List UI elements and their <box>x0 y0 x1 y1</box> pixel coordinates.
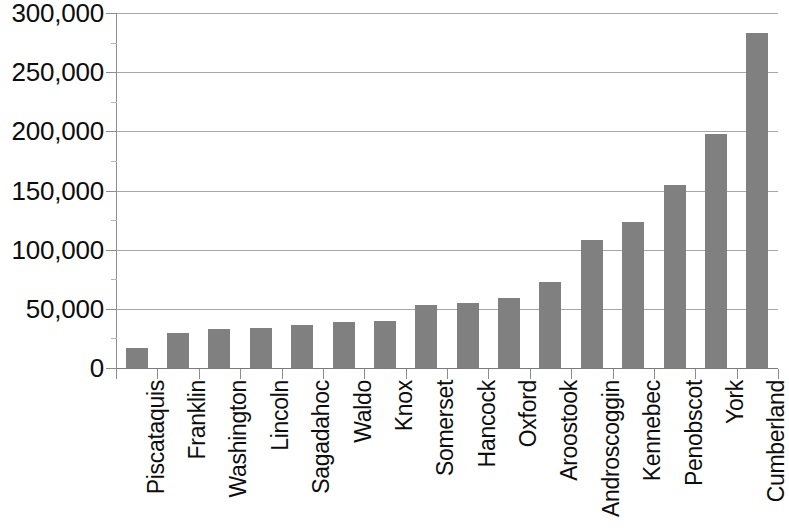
x-axis-tick-label: Androscoggin <box>600 380 623 517</box>
y-axis-tick-label: 100,000 <box>0 237 104 263</box>
x-axis-tick-label: Penobscot <box>683 380 706 486</box>
y-axis-labels: 050,000100,000150,000200,000250,000300,0… <box>0 0 104 380</box>
y-axis-minor-tick <box>111 43 117 44</box>
x-axis-tick-label: Hancock <box>476 380 499 467</box>
x-axis-labels: PiscataquisFranklinWashingtonLincolnSaga… <box>116 368 778 530</box>
y-axis-tick <box>106 131 117 132</box>
x-axis-tick-label: Knox <box>393 380 416 431</box>
x-axis-tick-label: Waldo <box>352 380 375 443</box>
y-axis-tick-label: 200,000 <box>0 118 104 144</box>
y-axis-minor-tick <box>111 279 117 280</box>
y-axis-tick-label: 300,000 <box>0 0 104 26</box>
bar <box>415 305 437 368</box>
bar <box>167 333 189 369</box>
x-axis-tick-label: Piscataquis <box>145 380 168 494</box>
y-axis-minor-tick <box>111 102 117 103</box>
x-axis-tick-label: Cumberland <box>765 380 788 502</box>
x-axis-tick-label: Washington <box>227 380 250 498</box>
bar <box>457 303 479 368</box>
x-axis-tick-label: Franklin <box>186 380 209 459</box>
bar <box>374 321 396 368</box>
y-axis-tick-label: 50,000 <box>0 296 104 322</box>
y-axis-tick <box>106 72 117 73</box>
bar <box>664 185 686 368</box>
bar <box>333 322 355 368</box>
y-axis-tick <box>106 368 117 369</box>
bar <box>539 282 561 368</box>
x-axis-tick-label: Sagadahoc <box>310 380 333 494</box>
bar <box>498 298 520 368</box>
bars-layer <box>116 13 778 368</box>
bar <box>746 33 768 368</box>
y-axis-tick <box>106 191 117 192</box>
bar <box>126 348 148 368</box>
y-axis-minor-tick <box>111 338 117 339</box>
bar <box>291 325 313 368</box>
y-axis-tick <box>106 13 117 14</box>
bar <box>705 134 727 368</box>
y-axis-minor-tick <box>111 220 117 221</box>
bar <box>250 328 272 368</box>
x-axis-tick-label: Somerset <box>434 380 457 476</box>
bar <box>208 329 230 368</box>
y-axis-tick-label: 0 <box>0 355 104 381</box>
bar <box>622 222 644 368</box>
y-axis-minor-tick <box>111 161 117 162</box>
x-axis-tick-label: Kennebec <box>641 380 664 481</box>
x-axis-tick-label: Aroostook <box>558 380 581 481</box>
y-axis-tick <box>106 309 117 310</box>
x-axis-tick-label: York <box>724 380 747 424</box>
y-axis-tick-label: 250,000 <box>0 59 104 85</box>
x-axis-tick <box>778 369 779 379</box>
y-axis-tick <box>106 250 117 251</box>
x-axis-tick-label: Lincoln <box>269 380 292 451</box>
bar <box>581 240 603 368</box>
x-axis-tick-label: Oxford <box>517 380 540 447</box>
y-axis-tick-label: 150,000 <box>0 178 104 204</box>
